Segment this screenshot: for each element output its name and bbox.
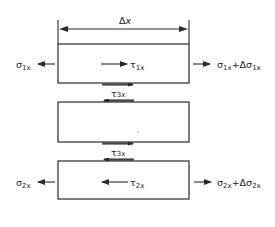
left-stress-label: σ2x xyxy=(16,177,31,190)
right-stress-label: σ1x+Δσ1x xyxy=(217,59,261,72)
dimension-delta-x: Δx xyxy=(58,15,189,44)
speck xyxy=(137,131,138,132)
interface-shear-label: τ3x xyxy=(111,88,125,99)
interface-shear-label: τ3x xyxy=(111,147,125,158)
layer-1: σ1x τ1x σ1x+Δσ1x xyxy=(16,44,261,83)
left-stress-label: σ1x xyxy=(16,59,31,72)
layer-3 xyxy=(58,102,189,142)
right-stress-label: σ2x+Δσ2x xyxy=(217,177,261,190)
layer-2-box xyxy=(58,161,189,199)
interface-shear-2: τ3x xyxy=(102,144,134,160)
layer-2: σ2x τ2x σ2x+Δσ2x xyxy=(16,161,261,199)
dimension-label: Δx xyxy=(119,15,132,26)
arrowhead-left-icon xyxy=(59,26,68,32)
interface-shear-1: τ3x xyxy=(102,85,134,101)
layer-3-box xyxy=(58,102,189,142)
layered-element-diagram: Δx σ1x τ1x σ1x+Δσ1x τ3x xyxy=(0,0,275,227)
arrowhead-right-icon xyxy=(179,26,188,32)
